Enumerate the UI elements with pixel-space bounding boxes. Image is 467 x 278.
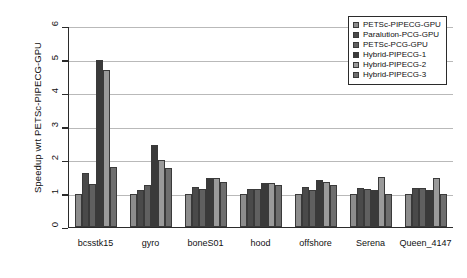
bar-chart: Speedup wrt PETSc-PIPECG-GPU 0123456 bcs…: [0, 0, 467, 278]
bar: [316, 180, 323, 227]
bar: [103, 70, 110, 227]
legend-item: Hybrid-PIPECG-3: [353, 71, 441, 80]
bar: [261, 183, 268, 227]
legend-item: PETSc-PCG-GPU: [353, 41, 441, 50]
bar: [419, 188, 426, 227]
y-axis-ticks: 0123456: [0, 27, 68, 228]
bar: [89, 184, 96, 227]
legend-label: PETSc-PIPECG-GPU: [363, 21, 441, 29]
bar: [268, 183, 275, 227]
bar: [151, 145, 158, 227]
legend-swatch-icon: [353, 72, 359, 78]
legend-swatch-icon: [353, 42, 359, 48]
bar: [323, 182, 330, 227]
x-axis-label: bcsstk15: [68, 238, 123, 248]
legend-swatch-icon: [353, 62, 359, 68]
y-tick-label: 5: [50, 55, 60, 60]
y-tick-label: 4: [50, 88, 60, 93]
bar: [199, 189, 206, 227]
bar-group: [179, 27, 234, 227]
bar: [295, 194, 302, 228]
x-axis-label: offshore: [288, 238, 343, 248]
x-axis-label: boneS01: [178, 238, 233, 248]
bar: [309, 190, 316, 227]
bar: [302, 187, 309, 227]
y-tick-label: 6: [50, 21, 60, 26]
x-axis-label: Queen_4147: [398, 238, 453, 248]
bar-group: [234, 27, 289, 227]
legend-label: PETSc-PCG-GPU: [363, 41, 428, 49]
legend-item: Hybrid-PIPECG-2: [353, 61, 441, 70]
x-axis-label: Serena: [343, 238, 398, 248]
bar: [220, 182, 227, 227]
bar: [275, 185, 282, 227]
y-tick-label: 3: [50, 122, 60, 127]
y-tick-label: 2: [50, 155, 60, 160]
legend-item: Paralution-PCG-GPU: [353, 31, 441, 40]
bar: [144, 185, 151, 227]
x-axis-labels: bcsstk15gyroboneS01hoodoffshoreSerenaQue…: [68, 238, 453, 248]
bar: [433, 178, 440, 227]
y-tick-label: 1: [50, 189, 60, 194]
bar: [254, 189, 261, 227]
bar: [371, 190, 378, 227]
bar: [110, 167, 117, 227]
bar: [440, 194, 447, 228]
bar: [185, 194, 192, 228]
bar: [130, 194, 137, 228]
bar: [412, 188, 419, 227]
bar: [82, 173, 89, 227]
legend-label: Paralution-PCG-GPU: [363, 31, 439, 39]
bar: [213, 178, 220, 227]
bar: [137, 190, 144, 227]
bar: [364, 189, 371, 227]
legend-item: PETSc-PIPECG-GPU: [353, 21, 441, 30]
bar: [96, 60, 103, 228]
bar-group: [69, 27, 124, 227]
x-axis-label: gyro: [123, 238, 178, 248]
bar: [192, 187, 199, 227]
bar: [75, 194, 82, 228]
legend-swatch-icon: [353, 32, 359, 38]
legend: PETSc-PIPECG-GPUParalution-PCG-GPUPETSc-…: [348, 16, 447, 85]
bar-group: [288, 27, 343, 227]
legend-swatch-icon: [353, 22, 359, 28]
bar: [350, 194, 357, 228]
bar: [385, 194, 392, 228]
bar: [405, 194, 412, 228]
legend-item: Hybrid-PIPECG-1: [353, 51, 441, 60]
bar-group: [124, 27, 179, 227]
y-tick-label: 0: [50, 222, 60, 227]
bar: [165, 168, 172, 227]
bar: [357, 188, 364, 227]
legend-swatch-icon: [353, 52, 359, 58]
bar: [158, 160, 165, 227]
legend-label: Hybrid-PIPECG-3: [363, 71, 426, 79]
bar: [426, 190, 433, 227]
bar: [247, 189, 254, 227]
legend-label: Hybrid-PIPECG-1: [363, 51, 426, 59]
bar: [206, 178, 213, 227]
bar: [378, 177, 385, 227]
bar: [330, 185, 337, 227]
bar: [240, 194, 247, 228]
x-axis-label: hood: [233, 238, 288, 248]
legend-label: Hybrid-PIPECG-2: [363, 61, 426, 69]
